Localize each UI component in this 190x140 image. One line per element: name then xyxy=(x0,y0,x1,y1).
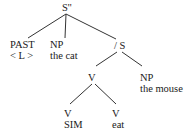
node-sublabel: the cat xyxy=(50,50,78,61)
node-np-object: NP the mouse xyxy=(140,72,183,94)
node-label: PAST xyxy=(10,39,35,50)
node-past: PAST < L > xyxy=(10,39,35,61)
node-v-sim: V SIM xyxy=(64,108,83,130)
node-sublabel: eat xyxy=(112,119,124,130)
node-label: V xyxy=(112,108,124,119)
node-label: NP xyxy=(140,72,183,83)
node-np-subject: NP the cat xyxy=(50,39,78,61)
edge-slash-s-np-obj xyxy=(122,52,142,66)
edge-root-np-subj xyxy=(65,14,66,38)
node-label: / S xyxy=(114,40,125,51)
syntax-tree-diagram: S'' PAST < L > NP the cat / S V NP the m… xyxy=(0,0,190,140)
edge-v-v-eat xyxy=(95,84,116,104)
node-label: V xyxy=(64,108,83,119)
edge-v-v-sim xyxy=(70,84,92,104)
edge-root-past xyxy=(28,14,66,38)
node-sublabel: the mouse xyxy=(140,83,183,94)
node-sublabel: < L > xyxy=(10,50,35,61)
node-sublabel: SIM xyxy=(64,119,83,130)
node-label: S'' xyxy=(62,2,72,13)
node-v-eat: V eat xyxy=(112,108,124,130)
node-v-complex: V xyxy=(88,72,96,83)
edge-slash-s-v xyxy=(96,52,117,66)
node-slash-s: / S xyxy=(114,40,125,51)
node-label: V xyxy=(88,72,96,83)
tree-edges xyxy=(0,0,190,140)
edge-root-slash-s xyxy=(66,14,116,39)
node-label: NP xyxy=(50,39,78,50)
node-root: S'' xyxy=(62,2,72,13)
